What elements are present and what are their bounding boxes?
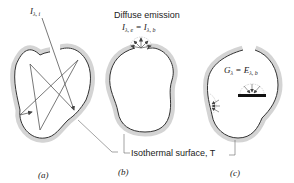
cavity-a bbox=[15, 44, 91, 138]
isothermal-surface-label: Isothermal surface, T bbox=[131, 149, 215, 158]
irradiation-equation: Gλ = Eλ, b bbox=[224, 66, 258, 76]
cavity-c bbox=[207, 50, 278, 138]
small-object bbox=[238, 94, 266, 97]
incident-intensity-label: Iλ, i bbox=[30, 7, 40, 17]
emission-equation: Iλ, e = Iλ, b bbox=[122, 23, 155, 33]
caption-c: (c) bbox=[230, 169, 240, 178]
diffuse-emission-title: Diffuse emission bbox=[114, 11, 180, 20]
caption-a: (a) bbox=[38, 171, 49, 180]
caption-b: (b) bbox=[118, 168, 129, 177]
cavity-b bbox=[110, 37, 174, 132]
